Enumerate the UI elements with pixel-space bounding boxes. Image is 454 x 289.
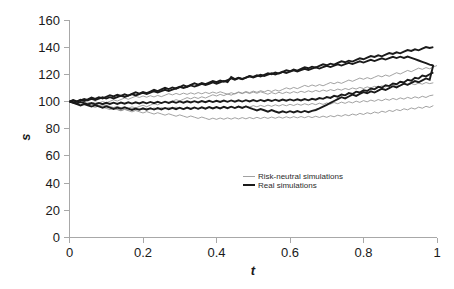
legend-label: Risk-neutral simulations: [258, 172, 343, 181]
x-tick-label: 0.8: [354, 245, 372, 260]
y-tick-label: 20: [46, 203, 60, 218]
y-tick-label: 60: [46, 148, 60, 163]
x-tick-label: 0.6: [281, 245, 299, 260]
x-tick-label: 0.4: [207, 245, 225, 260]
y-tick-label: 0: [53, 230, 60, 245]
chart-page: 020406080100120140160 00.20.40.60.81 s t…: [0, 0, 454, 289]
y-tick-label: 100: [38, 94, 60, 109]
line-chart: 020406080100120140160 00.20.40.60.81 s t…: [0, 0, 454, 289]
legend-label: Real simulations: [258, 181, 317, 190]
y-axis-title: s: [18, 133, 33, 140]
y-tick-label: 40: [46, 176, 60, 191]
x-tick-label: 0: [66, 245, 73, 260]
y-tick-label: 140: [38, 40, 60, 55]
x-tick-label: 0.2: [134, 245, 152, 260]
y-tick-label: 160: [38, 13, 60, 28]
y-tick-label: 120: [38, 67, 60, 82]
y-tick-label: 80: [46, 121, 60, 136]
x-axis-title: t: [251, 263, 256, 278]
x-tick-label: 1: [433, 245, 440, 260]
